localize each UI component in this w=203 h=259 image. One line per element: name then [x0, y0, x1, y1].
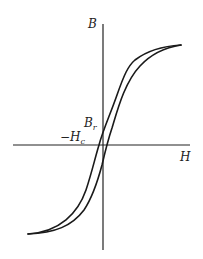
axis-label-h: H [179, 150, 191, 164]
label-remanence: Br [83, 116, 98, 132]
label-coercivity: −Hc [60, 130, 86, 146]
label-remanence-main: B [83, 116, 93, 130]
label-coercivity-sub: c [81, 137, 86, 146]
hysteresis-diagram: B H Br −Hc [0, 0, 203, 259]
hysteresis-ascending-branch [28, 45, 181, 234]
label-remanence-sub: r [93, 123, 98, 132]
hysteresis-descending-branch [28, 45, 181, 234]
axis-label-b: B [87, 17, 97, 31]
label-coercivity-main: −H [60, 130, 81, 144]
